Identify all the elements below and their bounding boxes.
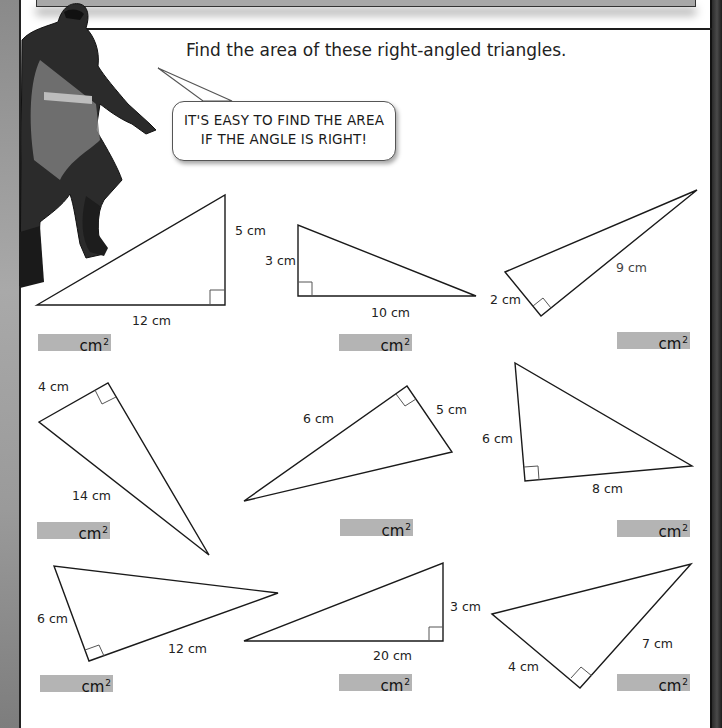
right-angle-marker-8 <box>429 627 443 641</box>
triangle-5-label-side-b: 5 cm <box>436 402 467 417</box>
triangle-6-label-side-a: 6 cm <box>482 431 513 446</box>
right-angle-marker-3 <box>533 298 551 308</box>
right-angle-marker-7 <box>85 645 104 656</box>
triangle-5 <box>244 386 452 501</box>
speech-bubble-line-2: IF THE ANGLE IS RIGHT! <box>173 130 395 149</box>
triangle-6 <box>515 363 692 481</box>
speech-bubble-tail <box>158 68 232 101</box>
triangle-9-label-side-a: 4 cm <box>508 659 539 674</box>
speech-bubble: IT'S EASY TO FIND THE AREA IF THE ANGLE … <box>172 101 396 161</box>
triangle-5-label-side-a: 6 cm <box>303 411 334 426</box>
answer-box-4[interactable]: cm2 <box>37 522 110 539</box>
triangle-8-label-side-a: 3 cm <box>450 599 481 614</box>
answer-unit: cm2 <box>658 335 688 353</box>
answer-unit: cm2 <box>78 525 108 543</box>
triangle-7-label-side-a: 6 cm <box>37 611 68 626</box>
answer-box-5[interactable]: cm2 <box>340 519 413 536</box>
answer-unit: cm2 <box>380 337 410 355</box>
superhero-illustration-icon <box>20 4 156 288</box>
right-angle-marker-9 <box>571 667 592 678</box>
triangle-4-label-side-b: 14 cm <box>72 488 111 503</box>
right-angle-marker-6 <box>524 466 539 480</box>
triangle-2 <box>298 225 476 296</box>
answer-unit: cm2 <box>380 677 410 695</box>
answer-box-1[interactable]: cm2 <box>38 334 111 351</box>
triangle-3 <box>505 190 697 316</box>
right-angle-marker-1 <box>210 290 225 305</box>
triangle-8 <box>244 563 443 641</box>
worksheet-page: Find the area of these right-angled tria… <box>0 0 722 728</box>
triangle-3-label-side-b: 2 cm <box>490 292 521 307</box>
triangle-4-label-side-a: 4 cm <box>38 379 69 394</box>
answer-box-2[interactable]: cm2 <box>339 334 412 351</box>
right-angle-marker-2 <box>298 282 312 296</box>
triangle-2-label-side-a: 3 cm <box>265 253 296 268</box>
answer-box-8[interactable]: cm2 <box>339 674 412 691</box>
answer-box-3[interactable]: cm2 <box>617 332 690 349</box>
triangle-9-label-side-b: 7 cm <box>642 636 673 651</box>
triangle-1-label-side-a: 5 cm <box>235 223 266 238</box>
speech-bubble-line-1: IT'S EASY TO FIND THE AREA <box>173 111 395 130</box>
answer-unit: cm2 <box>81 678 111 696</box>
triangle-1 <box>37 195 225 305</box>
triangle-7 <box>54 566 278 661</box>
triangle-3-label-side-a: 9 cm <box>616 260 647 275</box>
triangle-7-label-side-b: 12 cm <box>168 641 207 656</box>
triangle-8-label-side-b: 20 cm <box>373 648 412 663</box>
answer-box-7[interactable]: cm2 <box>40 675 113 692</box>
triangle-2-label-side-b: 10 cm <box>371 305 410 320</box>
answer-unit: cm2 <box>381 522 411 540</box>
triangle-1-label-side-b: 12 cm <box>132 313 171 328</box>
answer-unit: cm2 <box>79 337 109 355</box>
answer-unit: cm2 <box>658 523 688 541</box>
answer-box-9[interactable]: cm2 <box>617 674 690 691</box>
answer-unit: cm2 <box>658 677 688 695</box>
answer-box-6[interactable]: cm2 <box>617 520 690 537</box>
triangle-6-label-side-b: 8 cm <box>592 481 623 496</box>
